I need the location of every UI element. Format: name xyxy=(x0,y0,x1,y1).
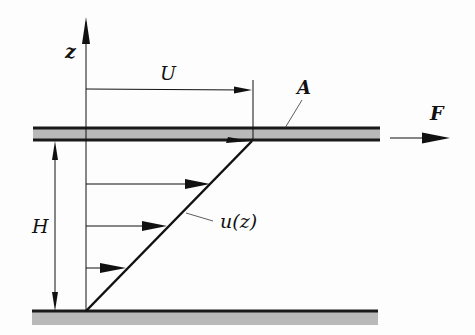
z-axis xyxy=(82,17,90,311)
h-arrow-down-icon xyxy=(52,292,58,311)
force-arrow-icon xyxy=(422,133,450,144)
velocity-arrows xyxy=(86,137,250,273)
area-label: A xyxy=(297,79,311,97)
couette-flow-diagram: z U A F H u(z) xyxy=(0,0,475,335)
velocity-arrow-3 xyxy=(86,179,210,189)
profile-leader-line xyxy=(186,213,213,221)
h-arrow-up-icon xyxy=(52,141,58,160)
force-arrow xyxy=(390,133,450,144)
force-label: F xyxy=(430,104,444,123)
velocity-arrow-1 xyxy=(86,263,126,273)
u-arrow-icon xyxy=(234,87,252,94)
h-dimension xyxy=(52,141,58,311)
gap-height-label: H xyxy=(32,217,49,236)
area-leader-line xyxy=(285,100,302,128)
velocity-scale-label: U xyxy=(160,64,176,83)
top-plate xyxy=(33,127,380,142)
z-axis-label: z xyxy=(65,42,76,61)
velocity-arrow-2 xyxy=(86,221,167,231)
z-axis-arrow-icon xyxy=(82,17,90,44)
profile-label: u(z) xyxy=(220,212,257,231)
bottom-plate xyxy=(32,310,378,326)
